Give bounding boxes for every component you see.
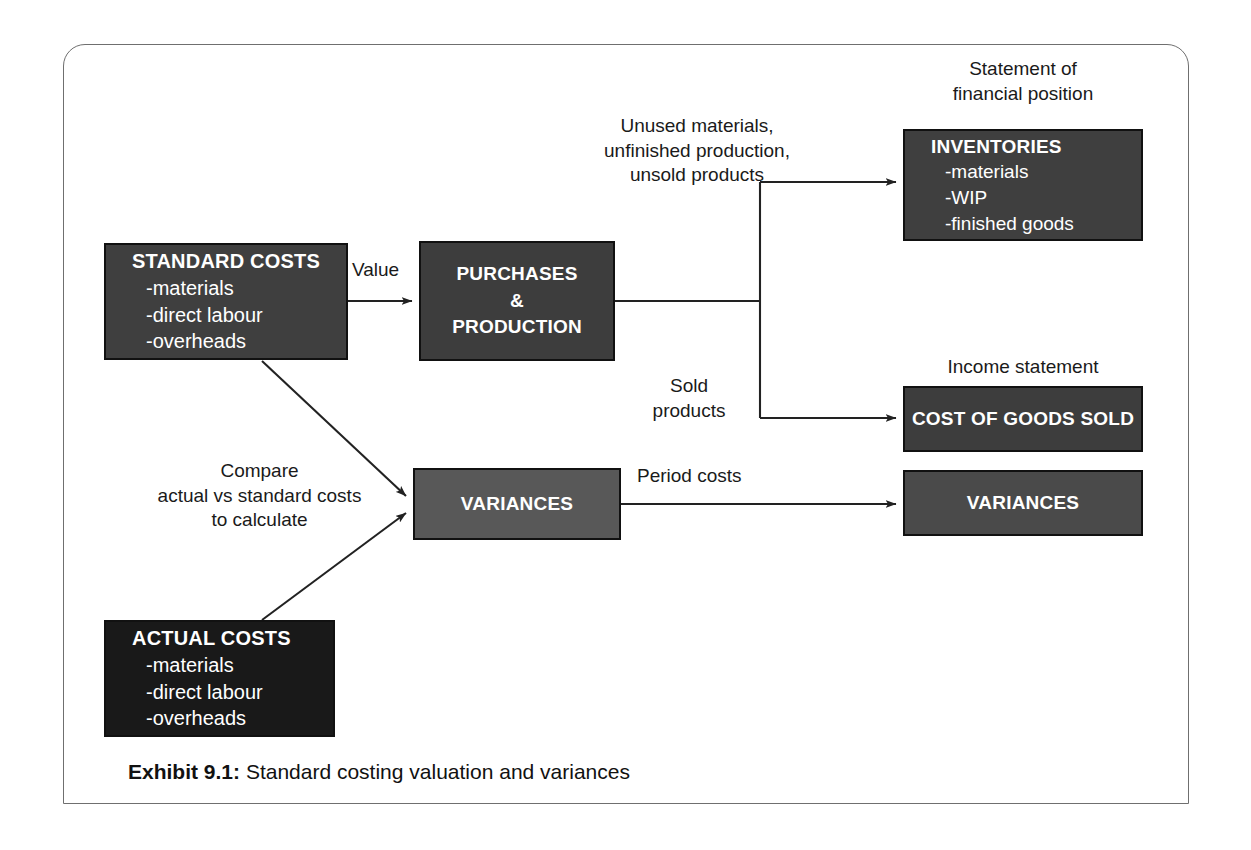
node-standard-costs-line-1: -materials xyxy=(132,275,346,302)
node-actual-costs-line-3: -overheads xyxy=(132,705,333,732)
node-actual-costs-line-2: -direct labour xyxy=(132,679,333,706)
edge-label-sold-products: Sold products xyxy=(636,374,742,423)
node-purchases-line-3: PRODUCTION xyxy=(452,314,582,341)
edge-label-compare: Compare actual vs standard costs to calc… xyxy=(107,459,412,533)
exhibit-caption-label: Exhibit 9.1: xyxy=(128,760,240,783)
node-actual-costs-title: ACTUAL COSTS xyxy=(132,625,333,652)
node-variances-mid[interactable]: VARIANCES xyxy=(413,468,621,540)
exhibit-caption: Exhibit 9.1: Standard costing valuation … xyxy=(128,760,630,784)
node-actual-costs-line-1: -materials xyxy=(132,652,333,679)
node-cost-of-goods-sold[interactable]: COST OF GOODS SOLD xyxy=(903,386,1143,452)
node-standard-costs[interactable]: STANDARD COSTS -materials -direct labour… xyxy=(104,243,348,360)
node-inventories-line-2: -WIP xyxy=(931,185,1141,211)
node-inventories[interactable]: INVENTORIES -materials -WIP -finished go… xyxy=(903,129,1143,241)
edge-label-period-costs: Period costs xyxy=(637,464,742,489)
node-actual-costs[interactable]: ACTUAL COSTS -materials -direct labour -… xyxy=(104,620,335,737)
node-purchases-line-2: & xyxy=(510,288,524,315)
node-inventories-line-3: -finished goods xyxy=(931,211,1141,237)
node-inventories-line-1: -materials xyxy=(931,159,1141,185)
node-standard-costs-line-3: -overheads xyxy=(132,328,346,355)
edge-label-unused-materials: Unused materials, unfinished production,… xyxy=(563,114,831,188)
exhibit-caption-text: Standard costing valuation and variances xyxy=(246,760,630,783)
heading-income-statement: Income statement xyxy=(903,355,1143,380)
node-standard-costs-title: STANDARD COSTS xyxy=(132,248,346,275)
node-variances-right-title: VARIANCES xyxy=(967,492,1079,514)
node-variances-mid-title: VARIANCES xyxy=(461,493,573,515)
node-cost-of-goods-sold-title: COST OF GOODS SOLD xyxy=(912,408,1134,430)
edge-label-value: Value xyxy=(352,258,399,283)
node-purchases-production[interactable]: PURCHASES & PRODUCTION xyxy=(419,241,615,361)
heading-statement-of-financial-position: Statement of financial position xyxy=(903,57,1143,106)
node-variances-right[interactable]: VARIANCES xyxy=(903,470,1143,536)
node-inventories-title: INVENTORIES xyxy=(931,134,1141,160)
node-purchases-line-1: PURCHASES xyxy=(456,261,577,288)
node-standard-costs-line-2: -direct labour xyxy=(132,302,346,329)
